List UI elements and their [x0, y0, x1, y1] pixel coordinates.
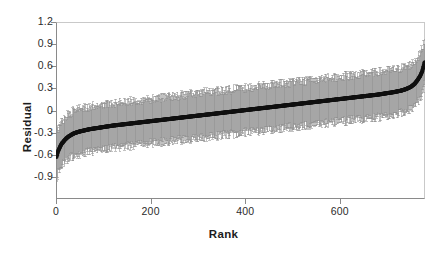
y-tick-label: 0 — [47, 104, 53, 116]
x-tick-label: 400 — [236, 205, 254, 217]
x-axis-title: Rank — [0, 228, 447, 240]
x-tick-label: 600 — [331, 205, 349, 217]
x-tick-label: 0 — [53, 205, 59, 217]
x-tick-label: 200 — [142, 205, 160, 217]
residual-rank-chart: 1.20.90.60.30-0.3-0.6-0.9 0200400600 Res… — [0, 0, 447, 253]
y-tick-label: -0.9 — [34, 170, 53, 182]
x-tick-mark — [245, 199, 246, 204]
plot-data-area — [56, 22, 425, 199]
x-tick-mark — [340, 199, 341, 204]
y-tick-label: 0.6 — [38, 59, 53, 71]
y-tick-label: 0.9 — [38, 37, 53, 49]
x-tick-mark — [151, 199, 152, 204]
x-tick-mark — [56, 199, 57, 204]
y-tick-label: 0.3 — [38, 81, 53, 93]
y-tick-label: 1.2 — [38, 15, 53, 27]
y-axis-title: Residual — [21, 101, 33, 151]
y-tick-label: -0.3 — [34, 126, 53, 138]
y-tick-label: -0.6 — [34, 148, 53, 160]
